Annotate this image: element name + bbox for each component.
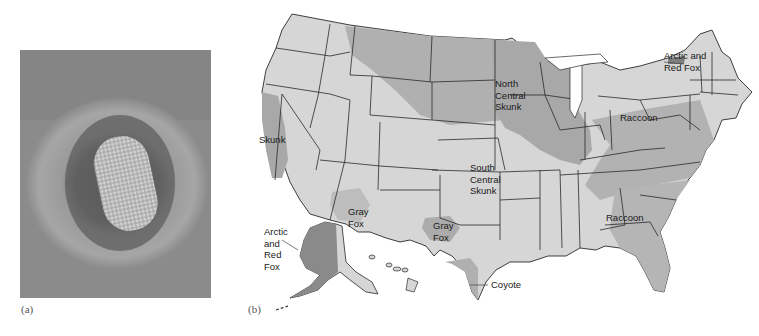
caption-a: (a) (21, 303, 33, 315)
label-skunk-california: Skunk (259, 134, 285, 146)
label-south-central-skunk: South Central Skunk (470, 162, 501, 197)
region-raccoon-se (610, 180, 690, 292)
virus-micrograph-image (20, 50, 211, 298)
caption-b: (b) (248, 303, 261, 315)
us-rabies-reservoir-map: Arctic and Red Fox North Central Skunk S… (240, 0, 759, 336)
micrograph-panel (20, 50, 211, 298)
label-north-central-skunk: North Central Skunk (495, 78, 526, 113)
hawaii (369, 255, 418, 292)
label-arctic-red-fox-northeast: Arctic and Red Fox (664, 50, 706, 73)
label-coyote: Coyote (491, 279, 521, 291)
label-gray-fox-texas: Gray Fox (433, 220, 454, 243)
label-gray-fox-arizona: Gray Fox (348, 206, 369, 229)
region-arctic-red-fox-ak (290, 222, 338, 298)
label-arctic-red-fox-alaska: Arctic and Red Fox (264, 226, 288, 272)
label-raccoon-southeast: Raccoon (606, 212, 644, 224)
label-raccoon-northeast: Raccoon (620, 112, 658, 124)
